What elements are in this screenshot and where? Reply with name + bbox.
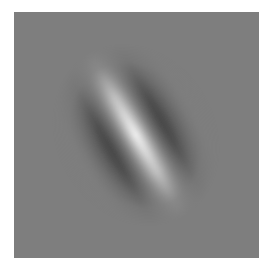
gabor-patch-canvas [14, 12, 259, 258]
gabor-patch-image [14, 12, 259, 258]
